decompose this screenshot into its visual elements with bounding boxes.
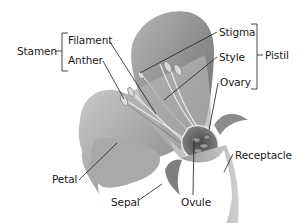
- label-pistil: Pistil: [265, 49, 289, 61]
- receptacle-shape: [180, 145, 239, 223]
- label-ovary: Ovary: [220, 76, 251, 88]
- flower-diagram: [0, 0, 302, 223]
- label-stamen: Stamen: [17, 45, 57, 57]
- label-anther: Anther: [68, 54, 103, 66]
- label-stigma: Stigma: [219, 26, 255, 38]
- sepal-right: [214, 114, 248, 135]
- label-receptacle: Receptacle: [235, 149, 292, 161]
- label-style: Style: [219, 51, 245, 63]
- label-petal: Petal: [52, 173, 77, 185]
- label-ovule: Ovule: [181, 196, 211, 208]
- label-filament: Filament: [68, 34, 112, 46]
- sepal-left: [165, 159, 182, 195]
- label-sepal: Sepal: [111, 196, 140, 208]
